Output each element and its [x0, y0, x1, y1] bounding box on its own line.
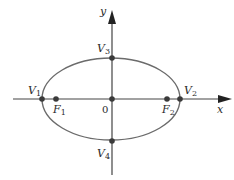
y-axis-label: y: [99, 5, 107, 18]
point-origin: [109, 96, 115, 102]
label-v1: V1: [28, 84, 41, 98]
label-v4: V4: [97, 147, 110, 161]
point-f2: [164, 96, 170, 102]
label-f1: F1: [52, 103, 66, 117]
label-f2: F2: [161, 103, 175, 117]
point-v3: [109, 55, 115, 61]
point-v4: [109, 138, 115, 144]
y-axis-arrow-icon: [108, 10, 116, 24]
label-v2: V2: [184, 84, 197, 98]
point-v2: [177, 96, 183, 102]
x-axis-arrow-icon: [218, 95, 232, 103]
x-axis-label: x: [217, 103, 224, 116]
ellipse-diagram: y x 0 V1 V2 V3 V4 F1 F2: [0, 0, 234, 180]
origin-label: 0: [102, 104, 108, 115]
point-f1: [53, 96, 59, 102]
label-v3: V3: [97, 42, 110, 56]
